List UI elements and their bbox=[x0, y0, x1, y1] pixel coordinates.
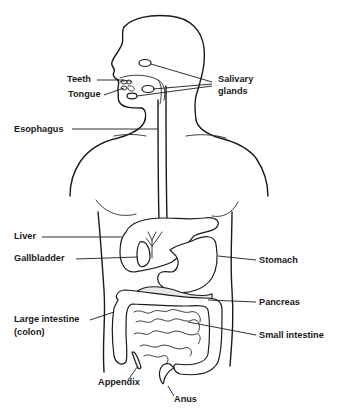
label-gallbladder: Gallbladder bbox=[14, 253, 65, 264]
label-pancreas: Pancreas bbox=[259, 297, 300, 308]
salivary-gland-lower bbox=[127, 93, 137, 99]
label-anus: Anus bbox=[174, 394, 197, 405]
label-appendix: Appendix bbox=[98, 377, 140, 388]
small-intestine bbox=[134, 310, 200, 364]
label-tongue: Tongue bbox=[68, 89, 101, 100]
label-salivary-glands-line1: Salivary bbox=[218, 74, 253, 85]
salivary-gland-middle bbox=[142, 86, 154, 93]
label-teeth: Teeth bbox=[67, 74, 91, 85]
label-stomach: Stomach bbox=[259, 255, 298, 266]
label-salivary-glands-line2: glands bbox=[218, 86, 248, 97]
appendix bbox=[132, 352, 141, 369]
label-esophagus: Esophagus bbox=[14, 124, 64, 135]
label-small-intestine: Small intestine bbox=[259, 330, 324, 341]
digestive-system-diagram bbox=[0, 0, 348, 417]
salivary-gland-upper bbox=[139, 60, 151, 67]
label-large-intestine-line1: Large intestine bbox=[14, 314, 79, 325]
label-liver: Liver bbox=[14, 231, 36, 242]
gallbladder bbox=[137, 242, 150, 267]
label-large-intestine-line2: (colon) bbox=[14, 327, 45, 338]
rectum bbox=[159, 364, 174, 384]
